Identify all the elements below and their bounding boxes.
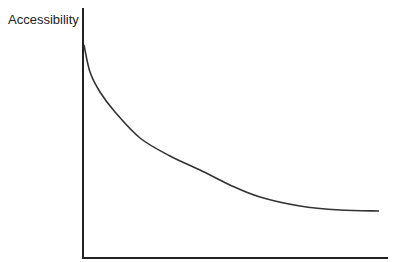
chart-canvas bbox=[0, 0, 395, 262]
accessibility-curve bbox=[84, 45, 379, 211]
